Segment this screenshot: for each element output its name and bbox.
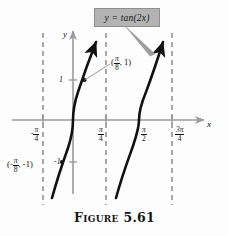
figure-container: y = tan(2x) y x 1 -1 -π4 π4 π2 3π4 (π8, …: [0, 0, 229, 236]
y-tick-label-1: 1: [59, 75, 63, 84]
x-tick-label-pi-over-4: π4: [98, 126, 104, 142]
annotation-tail: , 1): [120, 57, 131, 67]
denominator: 4: [33, 135, 39, 143]
x-tick-label-pi-over-2: π2: [141, 126, 147, 142]
x-tick-label-neg-pi-over-4: -π4: [31, 126, 39, 142]
y-tick-label-neg-1: -1: [54, 157, 61, 166]
tangent-graph-svg: [0, 0, 229, 236]
annotation-point-lower: (-π8, -1): [7, 157, 33, 173]
asymptote-group: [43, 33, 172, 205]
callout-pointer: [126, 27, 155, 56]
equation-text: y = tan(2x): [104, 13, 149, 23]
equation-callout: y = tan(2x): [94, 8, 160, 27]
figure-caption: Figure 5.61: [0, 210, 229, 225]
annotation-tail: , -1): [19, 159, 33, 169]
x-axis-label: x: [207, 119, 211, 129]
denominator: 2: [141, 135, 147, 143]
x-tick-label-3pi-over-4: 3π4: [175, 126, 184, 142]
denominator: 4: [175, 135, 184, 143]
y-axis-label: y: [63, 29, 67, 39]
denominator: 4: [98, 135, 104, 143]
annotation-point-upper: (π8, 1): [111, 55, 131, 71]
